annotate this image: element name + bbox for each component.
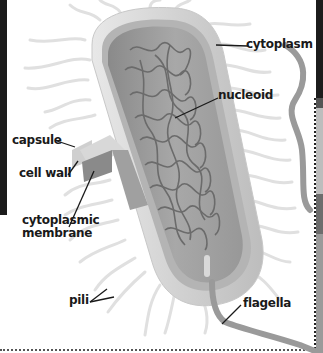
- label-nucleoid: nucleoid: [218, 89, 273, 102]
- label-cytoplasmic-membrane-line2: membrane: [22, 226, 92, 240]
- label-flagella: flagella: [243, 297, 291, 310]
- bacterium-body: [72, 7, 263, 305]
- label-cytoplasmic-membrane: cytoplasmic membrane: [22, 214, 90, 240]
- diagram-frame: cytoplasm nucleoid capsule cell wall cyt…: [0, 0, 323, 353]
- label-capsule: capsule: [12, 134, 62, 147]
- label-cytoplasm: cytoplasm: [246, 38, 313, 51]
- label-cell-wall: cell wall: [19, 167, 71, 180]
- label-pili: pili: [69, 294, 89, 307]
- label-cytoplasmic-membrane-line1: cytoplasmic: [22, 213, 99, 227]
